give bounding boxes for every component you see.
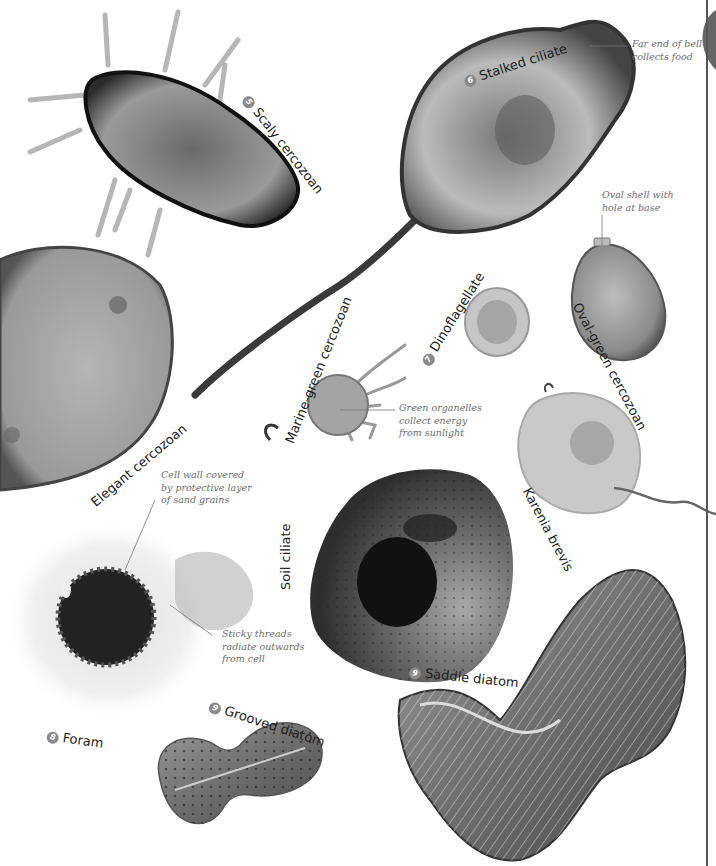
annotation-stalked-ciliate: Far end of bell collects food bbox=[632, 38, 702, 63]
annotation-foram-sticky-threads: Sticky threads radiate outwards from cel… bbox=[222, 628, 304, 666]
encyclopedia-page: 5Scaly cercozoan 6Stalked ciliate 7Dinof… bbox=[0, 0, 716, 866]
micrograph-illustrations bbox=[0, 0, 716, 866]
annotation-oval-green-cercozoan: Oval shell with hole at base bbox=[602, 189, 674, 214]
number-badge: 8 bbox=[46, 731, 60, 745]
label-soil-ciliate: Soil ciliate bbox=[278, 523, 293, 590]
annotation-foram-cell-wall: Cell wall covered by protective layer of… bbox=[161, 469, 252, 507]
annotation-marine-green-cercozoan: Green organelles collect energy from sun… bbox=[399, 402, 482, 440]
number-badge: 9 bbox=[408, 667, 421, 680]
page-edge-rule bbox=[706, 0, 708, 866]
